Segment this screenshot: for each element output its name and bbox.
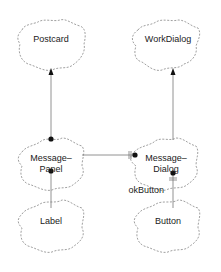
workdialog-cloud xyxy=(132,20,199,70)
class-button-label: Button xyxy=(137,216,199,227)
class-messagepanel-label-1: Message– xyxy=(21,153,81,164)
class-workdialog-label: WorkDialog xyxy=(137,34,199,45)
class-postcard-label: Postcard xyxy=(21,34,81,45)
postcard-cloud xyxy=(18,20,85,71)
arrowhead-icon xyxy=(49,68,54,75)
class-label-label: Label xyxy=(21,216,81,227)
has-dot-icon xyxy=(48,136,53,141)
class-messagepanel-label-2: Panel xyxy=(21,164,81,175)
class-messagedialog-label-1: Message– xyxy=(135,153,197,164)
arrowhead-icon xyxy=(171,68,176,75)
class-messagedialog-label-2: Dialog xyxy=(135,164,197,175)
edge-label-okbutton: okButton xyxy=(124,185,164,196)
